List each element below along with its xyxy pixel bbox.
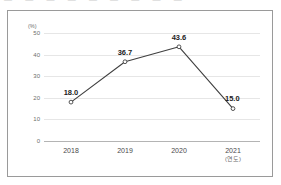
data-point-marker <box>177 45 181 49</box>
cropped-text-line: — — — — — — — — — <box>4 0 187 4</box>
series-line <box>71 47 233 109</box>
data-point-marker <box>231 107 235 111</box>
data-point-label: 43.6 <box>159 34 199 42</box>
data-point-label: 36.7 <box>105 49 145 57</box>
data-point-marker <box>123 60 127 64</box>
chart-figure-frame: (%) 01020304050 2018201920202021(연도) 18.… <box>7 10 273 177</box>
data-point-marker <box>69 100 73 104</box>
data-point-label: 18.0 <box>51 89 91 97</box>
line-chart: (%) 01020304050 2018201920202021(연도) 18.… <box>8 11 272 176</box>
cropped-text-sliver: — — — — — — — — — <box>0 0 281 8</box>
data-point-label: 15.0 <box>225 95 265 103</box>
